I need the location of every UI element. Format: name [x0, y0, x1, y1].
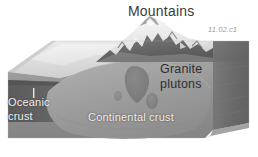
mountain-range-icon — [96, 16, 213, 63]
right-face-upper-texture — [213, 41, 249, 62]
pluton-small — [146, 93, 158, 109]
block-diagram-figure: Mountains 11.02.c1 Granite plutons Ocean… — [0, 0, 258, 157]
geologic-block-diagram — [0, 0, 258, 157]
tick-mark-icon — [33, 88, 34, 98]
block-right-face — [210, 41, 249, 136]
pluton-tiny — [114, 91, 122, 101]
